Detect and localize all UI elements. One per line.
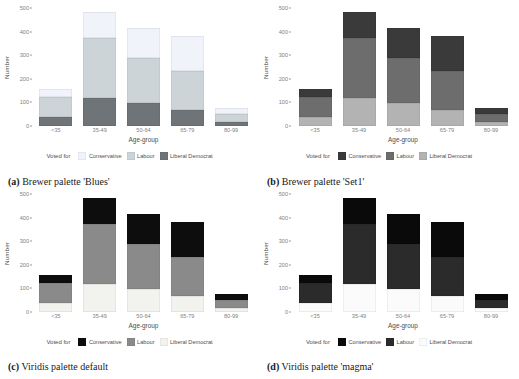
bar-stack[interactable]	[127, 214, 160, 312]
y-axis-label-a: Number	[2, 8, 12, 126]
bar-segment[interactable]	[431, 71, 464, 110]
bar-segment[interactable]	[171, 36, 204, 71]
caption-tag: (c)	[8, 361, 19, 372]
bar-stack[interactable]	[171, 36, 204, 126]
bar-stack[interactable]	[171, 222, 204, 312]
legend-c: Voted for ConservativeLabourLiberal Demo…	[0, 338, 259, 346]
bar-segment[interactable]	[387, 58, 420, 103]
bar-segment[interactable]	[299, 89, 332, 97]
bar-stack[interactable]	[83, 198, 116, 312]
legend-item[interactable]: Liberal Democrat	[160, 338, 213, 346]
legend-swatch-icon	[127, 152, 135, 160]
bar-segment[interactable]	[39, 97, 72, 116]
bar-segment[interactable]	[39, 283, 72, 302]
bar-segment[interactable]	[387, 103, 420, 126]
legend-item[interactable]: Liberal Democrat	[160, 152, 213, 160]
legend-item[interactable]: Liberal Democrat	[419, 338, 472, 346]
bar-segment[interactable]	[127, 103, 160, 126]
bar-stack[interactable]	[299, 275, 332, 312]
bar-stack[interactable]	[431, 222, 464, 312]
bar-segment[interactable]	[299, 97, 332, 116]
bar-segment[interactable]	[475, 122, 508, 126]
bar-stack[interactable]	[387, 28, 420, 126]
bar-segment[interactable]	[299, 283, 332, 302]
bar-segment[interactable]	[343, 198, 376, 224]
y-tick-mark	[289, 31, 291, 32]
bar-segment[interactable]	[171, 71, 204, 110]
bar-stack[interactable]	[215, 108, 248, 126]
bar-stack[interactable]	[387, 214, 420, 312]
bar-segment[interactable]	[39, 89, 72, 97]
legend-item[interactable]: Labour	[386, 152, 414, 160]
bar-stack[interactable]	[475, 108, 508, 126]
bar-segment[interactable]	[215, 122, 248, 126]
bar-segment[interactable]	[215, 300, 248, 308]
bar-stack[interactable]	[39, 89, 72, 126]
bar-segment[interactable]	[127, 289, 160, 312]
bar-segment[interactable]	[343, 284, 376, 312]
bar-segment[interactable]	[83, 224, 116, 283]
bar-stack[interactable]	[215, 294, 248, 312]
bar-segment[interactable]	[171, 257, 204, 296]
legend-label: Conservative	[89, 153, 122, 159]
bar-segment[interactable]	[387, 28, 420, 59]
bar-segment[interactable]	[83, 12, 116, 38]
legend-swatch-icon	[338, 338, 346, 346]
bar-segment[interactable]	[299, 275, 332, 283]
bar-segment[interactable]	[299, 303, 332, 312]
bar-segment[interactable]	[215, 114, 248, 122]
bar-segment[interactable]	[431, 296, 464, 312]
bar-segment[interactable]	[387, 244, 420, 289]
legend-item[interactable]: Liberal Democrat	[419, 152, 472, 160]
bar-segment[interactable]	[171, 296, 204, 312]
bar-segment[interactable]	[83, 198, 116, 224]
bar-segment[interactable]	[343, 224, 376, 283]
caption-c: (c) Viridis palette default	[8, 361, 108, 372]
legend-item[interactable]: Labour	[386, 338, 414, 346]
bar-segment[interactable]	[171, 110, 204, 126]
bar-segment[interactable]	[431, 222, 464, 257]
bar-stack[interactable]	[431, 36, 464, 126]
plot-area-a	[34, 8, 253, 126]
bar-segment[interactable]	[387, 289, 420, 312]
bar-segment[interactable]	[83, 98, 116, 126]
bar-segment[interactable]	[39, 275, 72, 283]
y-tick-mark	[30, 288, 32, 289]
bar-segment[interactable]	[387, 214, 420, 245]
bar-segment[interactable]	[431, 257, 464, 296]
bar-segment[interactable]	[39, 117, 72, 126]
bar-segment[interactable]	[475, 300, 508, 308]
bar-segment[interactable]	[343, 38, 376, 97]
legend-item[interactable]: Conservative	[338, 338, 381, 346]
legend-item[interactable]: Conservative	[78, 338, 121, 346]
bar-segment[interactable]	[127, 58, 160, 103]
bar-segment[interactable]	[215, 308, 248, 312]
bar-segment[interactable]	[475, 114, 508, 122]
bar-stack[interactable]	[343, 12, 376, 126]
bar-segment[interactable]	[431, 36, 464, 71]
bar-segment[interactable]	[127, 214, 160, 245]
bar-segment[interactable]	[299, 117, 332, 126]
bar-stack[interactable]	[475, 294, 508, 312]
bar-stack[interactable]	[343, 198, 376, 312]
y-tick-label: 0	[285, 123, 288, 129]
bar-segment[interactable]	[343, 98, 376, 126]
bar-stack[interactable]	[83, 12, 116, 126]
bar-stack[interactable]	[299, 89, 332, 126]
bar-segment[interactable]	[431, 110, 464, 126]
bar-segment[interactable]	[83, 284, 116, 312]
bar-segment[interactable]	[127, 244, 160, 289]
bar-stack[interactable]	[127, 28, 160, 126]
bar-segment[interactable]	[343, 12, 376, 38]
legend-item[interactable]: Labour	[127, 338, 155, 346]
bar-segment[interactable]	[475, 308, 508, 312]
bar-stack[interactable]	[39, 275, 72, 312]
legend-item[interactable]: Conservative	[338, 152, 381, 160]
bar-segment[interactable]	[171, 222, 204, 257]
legend-item[interactable]: Conservative	[78, 152, 121, 160]
bar-segment[interactable]	[83, 38, 116, 97]
bar-segment[interactable]	[39, 303, 72, 312]
legend-item[interactable]: Labour	[127, 152, 155, 160]
bar-segment[interactable]	[127, 28, 160, 59]
y-axis-ticks-d: 0100200300400500	[271, 194, 291, 312]
